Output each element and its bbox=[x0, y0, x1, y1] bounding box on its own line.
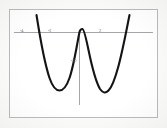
y-tick-label-minus20: -20 bbox=[71, 58, 76, 63]
x-tick-label-2: 2 bbox=[99, 28, 101, 33]
graph-svg bbox=[10, 10, 157, 117]
plot-area: -4 -2 2 -20 bbox=[10, 10, 157, 117]
figure-frame: -4 -2 2 -20 bbox=[9, 9, 158, 118]
x-tick-label-minus4: -4 bbox=[20, 28, 23, 33]
x-tick-label-minus2: -2 bbox=[48, 28, 51, 33]
screenshot-root: -4 -2 2 -20 bbox=[0, 0, 167, 128]
